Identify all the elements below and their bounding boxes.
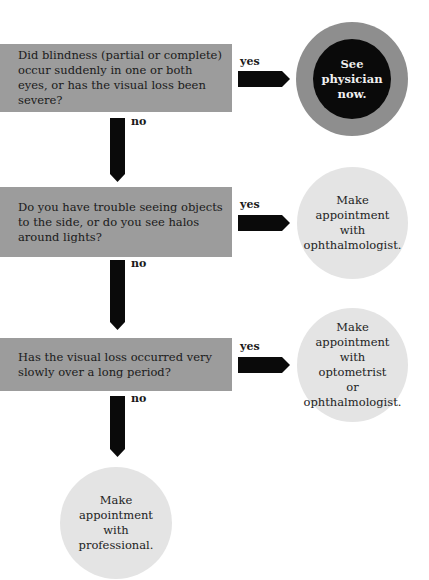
yes-label-1: yes: [240, 55, 260, 68]
outcome-circle-4: Make appointment with professional.: [60, 467, 172, 579]
outcome-inner-circle: See physician now.: [313, 39, 391, 119]
question-text-3: Has the visual loss occurred very slowly…: [18, 350, 224, 380]
yes-arrow-2: [238, 215, 290, 231]
yes-arrow-1: [238, 71, 290, 87]
question-text-1: Did blindness (partial or complete) occu…: [18, 48, 224, 108]
outcome-circle-3: Make appointment with optometrist or oph…: [297, 308, 408, 422]
outcome-text-4: Make appointment with professional.: [79, 493, 154, 553]
no-arrow-3: [110, 396, 125, 457]
question-text-2: Do you have trouble seeing objects to th…: [18, 200, 224, 245]
no-arrow-2: [110, 260, 125, 330]
no-label-2: no: [131, 257, 146, 270]
yes-label-3: yes: [240, 340, 260, 353]
yes-arrow-3: [238, 357, 290, 373]
yes-label-2: yes: [240, 198, 260, 211]
no-arrow-1: [110, 118, 125, 182]
outcome-circle-2: Make appointment with ophthalmologist.: [297, 167, 408, 279]
outcome-circle-urgent: See physician now.: [296, 22, 408, 136]
question-box-1: Did blindness (partial or complete) occu…: [0, 44, 232, 112]
question-box-3: Has the visual loss occurred very slowly…: [0, 338, 232, 391]
outcome-text-2: Make appointment with ophthalmologist.: [304, 193, 402, 253]
no-label-1: no: [131, 115, 146, 128]
outcome-text-1: See physician now.: [321, 57, 382, 102]
no-label-3: no: [131, 392, 146, 405]
outcome-text-3: Make appointment with optometrist or oph…: [304, 320, 402, 410]
question-box-2: Do you have trouble seeing objects to th…: [0, 187, 232, 257]
